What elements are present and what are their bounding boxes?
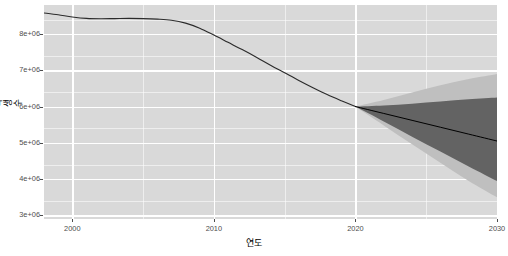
chart-title bbox=[0, 0, 508, 1]
x-tick-label: 2000 bbox=[52, 224, 92, 233]
y-tick-mark bbox=[40, 143, 43, 144]
y-tick-label: 4e+06 bbox=[2, 175, 40, 183]
y-tick-label: 7e+06 bbox=[2, 66, 40, 74]
y-tick-mark bbox=[40, 34, 43, 35]
y-tick-label: 5e+06 bbox=[2, 139, 40, 147]
confidence-band-inner bbox=[355, 97, 497, 180]
y-tick-label: 8e+06 bbox=[2, 30, 40, 38]
x-tick-label: 2020 bbox=[335, 224, 375, 233]
x-tick-mark bbox=[72, 219, 73, 222]
y-tick-mark bbox=[40, 179, 43, 180]
x-tick-mark bbox=[497, 219, 498, 222]
y-axis-ticks: 3e+064e+065e+066e+067e+068e+06 bbox=[0, 0, 40, 256]
x-axis-label: 연도 bbox=[0, 236, 508, 249]
x-tick-mark bbox=[355, 219, 356, 222]
x-tick-label: 2010 bbox=[194, 224, 234, 233]
y-tick-mark bbox=[40, 215, 43, 216]
x-tick-label: 2030 bbox=[477, 224, 508, 233]
plot-panel bbox=[44, 5, 497, 219]
y-tick-mark bbox=[40, 107, 43, 108]
y-tick-mark bbox=[40, 70, 43, 71]
y-tick-label: 3e+06 bbox=[2, 211, 40, 219]
chart-data-layer bbox=[44, 5, 497, 219]
x-tick-mark bbox=[214, 219, 215, 222]
chart-figure: 학생수 3e+064e+065e+066e+067e+068e+06 20002… bbox=[0, 0, 508, 256]
y-tick-label: 6e+06 bbox=[2, 103, 40, 111]
historical-line bbox=[44, 13, 355, 107]
